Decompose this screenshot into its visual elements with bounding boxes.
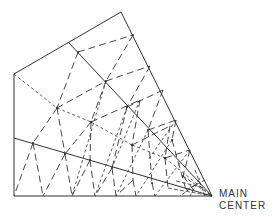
outer-boundary [14, 12, 212, 196]
long-dash-lines [14, 35, 195, 196]
node-markers [32, 34, 184, 184]
mesh-diagram [0, 0, 275, 217]
solid-line-upper [69, 43, 212, 196]
main-center-label-line1: MAIN [219, 188, 266, 200]
main-center-label: MAIN CENTER [219, 188, 266, 212]
solid-line-lower [14, 138, 212, 196]
main-center-label-line2: CENTER [219, 200, 266, 212]
